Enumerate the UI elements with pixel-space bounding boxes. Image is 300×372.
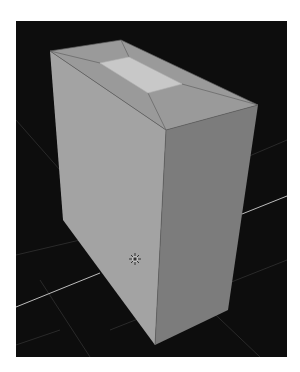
3d-viewport[interactable]: 3D viewport box mesh 3D cursor [16,21,287,357]
box-mesh[interactable] [50,40,258,345]
right-face[interactable] [155,105,258,345]
scene-canvas [16,21,287,357]
